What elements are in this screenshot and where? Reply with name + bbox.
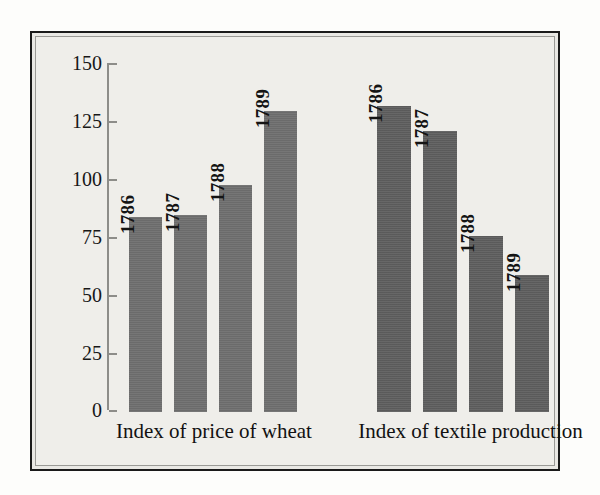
bar-label-wheat-1787: 1787 (162, 193, 184, 232)
figure-page: 150 125 100 75 50 25 0 (0, 0, 600, 495)
bar-wheat-1787 (174, 215, 207, 412)
y-axis-tick-50 (109, 295, 117, 297)
bar-label-textile-1788: 1788 (457, 214, 479, 253)
bar-wheat-1788 (219, 185, 252, 412)
bar-chart-plot-area: 150 125 100 75 50 25 0 (36, 37, 554, 465)
y-axis-tick-75 (109, 237, 117, 239)
y-axis-tick-125 (109, 121, 117, 123)
bar-wheat-1786 (129, 217, 162, 412)
bar-label-textile-1787: 1787 (411, 109, 433, 148)
group-caption-wheat: Index of price of wheat (99, 419, 329, 444)
bar-label-wheat-1789: 1789 (252, 89, 274, 128)
y-axis-tick-25 (109, 353, 117, 355)
bar-textile-1786 (377, 106, 411, 412)
bar-label-textile-1786: 1786 (365, 84, 387, 123)
bar-textile-1787 (423, 131, 457, 412)
bar-textile-1789 (515, 275, 549, 412)
y-axis-label-75: 75 (42, 226, 102, 249)
y-axis-tick-100 (109, 179, 117, 181)
y-axis-tick-150 (109, 63, 117, 65)
y-axis-label-25: 25 (42, 342, 102, 365)
figure-inner-frame: 150 125 100 75 50 25 0 (35, 36, 555, 466)
bar-label-textile-1789: 1789 (503, 253, 525, 292)
y-axis-label-0: 0 (42, 399, 102, 422)
y-axis-label-125: 125 (42, 110, 102, 133)
y-axis-label-50: 50 (42, 284, 102, 307)
y-axis-label-150: 150 (42, 52, 102, 75)
bar-textile-1788 (469, 236, 503, 412)
bar-label-wheat-1786: 1786 (117, 195, 139, 234)
group-caption-textile: Index of textile production (348, 419, 593, 444)
bar-label-wheat-1788: 1788 (207, 163, 229, 202)
figure-outer-frame: 150 125 100 75 50 25 0 (30, 31, 560, 471)
y-axis-tick-0 (109, 410, 117, 412)
bar-wheat-1789 (264, 111, 297, 412)
y-axis-label-100: 100 (42, 168, 102, 191)
